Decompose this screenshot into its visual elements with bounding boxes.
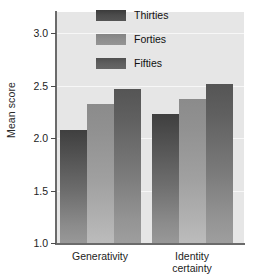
x-axis-label-identity-certainty: Identitycertainty [142, 250, 242, 274]
y-axis-tick-mark [51, 86, 56, 87]
y-axis-tick-mark [51, 243, 56, 244]
x-axis-line [55, 243, 245, 245]
y-axis-tick-label: 2.5 [22, 80, 48, 92]
x-axis-label-generativity: Generativity [50, 250, 150, 262]
y-axis-title: Mean score [5, 60, 17, 160]
legend-item-fifties[interactable]: Fifties [96, 53, 182, 73]
legend-label-thirties: Thirties [134, 9, 168, 21]
y-axis-tick-label: 1.0 [22, 237, 48, 249]
legend-item-forties[interactable]: Forties [96, 29, 182, 49]
legend-swatch-thirties [96, 10, 126, 21]
legend-label-forties: Forties [134, 33, 166, 45]
legend-swatch-fifties [96, 58, 126, 69]
y-axis-tick-label: 3.0 [22, 27, 48, 39]
bar-thirties-generativity [60, 130, 87, 243]
y-axis-tick-labels: 1.01.52.02.53.0 [22, 0, 48, 279]
bar-forties-identity-certainty [179, 99, 206, 243]
y-axis-tick-mark [51, 191, 56, 192]
bar-chart-figure: Mean score 1.01.52.02.53.0 ThirtiesForti… [0, 0, 256, 279]
y-axis-tick-label: 1.5 [22, 185, 48, 197]
bar-thirties-identity-certainty [152, 114, 179, 243]
y-axis-tick-mark [51, 138, 56, 139]
legend-label-fifties: Fifties [134, 57, 162, 69]
y-axis-tick-mark [51, 33, 56, 34]
bar-forties-generativity [87, 104, 114, 243]
x-axis-label-line: certainty [142, 262, 242, 274]
legend-item-thirties[interactable]: Thirties [96, 5, 182, 25]
x-axis-label-line: Identity [142, 250, 242, 262]
bar-fifties-generativity [114, 89, 141, 243]
y-axis-tick-label: 2.0 [22, 132, 48, 144]
legend-swatch-forties [96, 34, 126, 45]
x-axis-label-line: Generativity [50, 250, 150, 262]
bar-fifties-identity-certainty [206, 84, 233, 243]
legend: ThirtiesFortiesFifties [96, 5, 182, 77]
